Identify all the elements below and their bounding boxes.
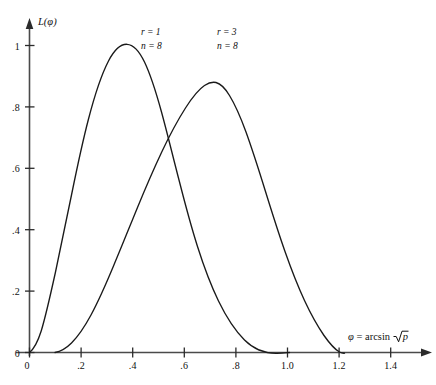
y-tick-label-0.4: .4 [2,224,20,235]
plot-canvas [0,0,436,385]
radical-glyph [393,330,409,343]
annotation-r3-line1: r = 3 [217,26,238,40]
x-tick-label-1.0: 1.0 [281,360,294,371]
x-tick-label-0.2: .2 [77,360,85,371]
annotation-curve-r1-n8: r = 1 n = 8 [141,26,162,54]
y-tick-label-0.6: .6 [2,163,20,174]
x-axis-title-arcsin: arcsin [365,331,390,342]
y-tick-label-0: 0 [2,347,20,358]
annotation-r1-line1: r = 1 [141,26,162,40]
sqrt-radical-icon: p [393,331,408,342]
likelihood-curve-figure: 0 .2 .4 .6 .8 1 0 .2 .4 .6 .8 1.0 1.2 1.… [0,0,436,385]
curve-r3-n8 [55,82,345,353]
annotation-r1-line2: n = 8 [141,40,162,54]
x-tick-label-1.2: 1.2 [333,360,346,371]
y-tick-label-0.8: .8 [2,101,20,112]
x-tick-label-1.4: 1.4 [384,360,397,371]
annotation-curve-r3-n8: r = 3 n = 8 [217,26,238,54]
curve-r1-n8 [30,44,290,353]
x-tick-label-0: 0 [24,360,29,371]
x-tick-label-0.6: .6 [180,360,188,371]
y-axis [26,18,34,356]
annotation-r3-line2: n = 8 [217,40,238,54]
x-axis [16,349,432,357]
x-tick-label-0.8: .8 [232,360,240,371]
y-axis-title: L(φ) [38,16,57,27]
x-axis-title: φ = arcsin p [348,331,408,342]
x-tick-label-0.4: .4 [129,360,137,371]
y-tick-label-1: 1 [2,40,20,51]
y-tick-label-0.2: .2 [2,286,20,297]
